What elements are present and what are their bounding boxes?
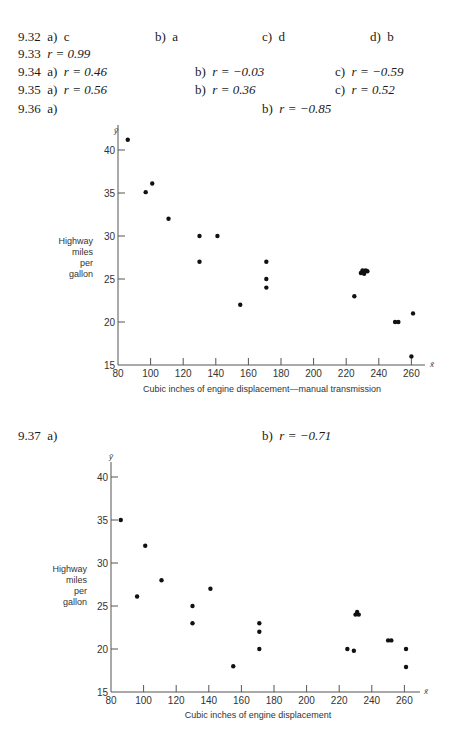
data-point (119, 518, 123, 522)
data-point (159, 578, 163, 582)
x-tick-label: 140 (200, 695, 217, 706)
data-point (257, 630, 261, 634)
svg-text:Highway: Highway (52, 564, 87, 574)
svg-text:gallon: gallon (63, 597, 87, 607)
x-tick-label: 260 (396, 695, 413, 706)
data-points (119, 518, 409, 669)
data-point (357, 612, 361, 616)
data-point (231, 664, 235, 668)
x-tick-label: 180 (266, 695, 283, 706)
data-point (404, 647, 408, 651)
svg-text:per: per (74, 586, 87, 596)
data-point (404, 665, 408, 669)
data-point (143, 544, 147, 548)
x-tick-label: 120 (168, 695, 185, 706)
x-axis-symbol: x̄ (423, 687, 429, 696)
data-point (257, 621, 261, 625)
x-tick-label: 220 (331, 695, 348, 706)
svg-text:miles: miles (66, 575, 88, 585)
y-ticks: 152025303540 (97, 472, 118, 698)
y-tick-label: 30 (97, 558, 109, 569)
data-point (190, 604, 194, 608)
y-axis: ȳ (108, 452, 114, 692)
x-tick-label: 200 (298, 695, 315, 706)
data-point (389, 638, 393, 642)
x-tick-label: 80 (105, 695, 117, 706)
y-axis-label: Highway miles per gallon (52, 564, 87, 607)
data-point (345, 647, 349, 651)
x-tick-label: 160 (233, 695, 250, 706)
scatter-plot-engine-displacement: ȳ x̄ 152025303540 8010012014016018020022… (0, 0, 455, 755)
x-tick-label: 100 (135, 695, 152, 706)
x-ticks: 80100120140160180200220240260 (105, 685, 413, 706)
data-point (208, 587, 212, 591)
y-tick-label: 25 (97, 601, 109, 612)
data-point (190, 621, 194, 625)
x-tick-label: 240 (363, 695, 380, 706)
y-tick-label: 35 (97, 515, 109, 526)
data-point (135, 594, 139, 598)
x-axis-label: Cubic inches of engine displacement (185, 710, 332, 720)
y-tick-label: 40 (97, 472, 109, 483)
y-axis-symbol: ȳ (108, 452, 114, 461)
y-tick-label: 20 (97, 644, 109, 655)
data-point (257, 647, 261, 651)
data-point (352, 649, 356, 653)
